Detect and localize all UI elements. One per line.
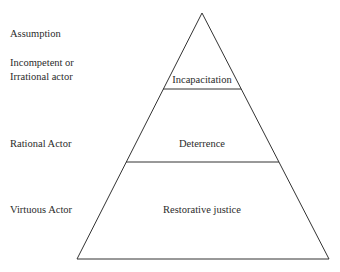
tier-incapacitation: Incapacitation bbox=[172, 73, 231, 87]
assumption-label-deterrence: Rational Actor bbox=[10, 137, 72, 151]
tier-deterrence: Deterrence bbox=[179, 137, 225, 151]
assumption-header: Assumption bbox=[10, 27, 61, 41]
assumption-label-incapacitation-line1: Incompetent or bbox=[10, 56, 74, 70]
pyramid-outline bbox=[77, 13, 329, 259]
assumption-label-restorative: Virtuous Actor bbox=[10, 203, 72, 217]
tier-restorative-justice: Restorative justice bbox=[163, 203, 241, 217]
assumption-label-incapacitation-line2: Irrational actor bbox=[10, 70, 73, 84]
